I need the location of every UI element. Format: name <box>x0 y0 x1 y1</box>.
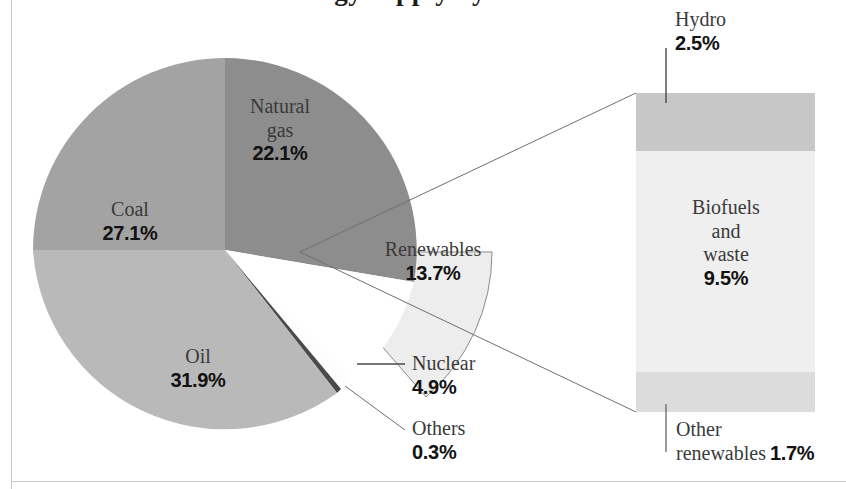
bar-label-biofuels-value: 9.5% <box>655 267 797 291</box>
pie-label-nuclear-value: 4.9% <box>412 376 475 400</box>
pie-label-coal-value: 27.1% <box>65 222 195 246</box>
bar-label-other-renewables: Other renewables 1.7% <box>676 418 814 465</box>
pie-label-renewables-value: 13.7% <box>343 262 523 286</box>
pie-label-nuclear: Nuclear 4.9% <box>412 352 475 399</box>
bar-label-hydro-value: 2.5% <box>675 32 726 56</box>
pie-label-coal-name: Coal <box>65 198 195 222</box>
pie-label-nuclear-name: Nuclear <box>412 352 475 376</box>
bar-label-other-renewables-name2: renewables <box>676 442 766 464</box>
bar-label-other-renewables-name: Other <box>676 418 814 442</box>
pie-label-others-value: 0.3% <box>412 441 465 465</box>
pie-label-natural-gas-name: Natural <box>200 95 360 119</box>
bar-label-biofuels-name: Biofuels <box>655 196 797 220</box>
pie-label-coal: Coal 27.1% <box>65 198 195 245</box>
pie-label-natural-gas-name2: gas <box>200 119 360 143</box>
bar-label-biofuels-and-waste: Biofuels and waste 9.5% <box>655 196 797 290</box>
bar-label-biofuels-name3: waste <box>655 243 797 267</box>
pie-label-others-name: Others <box>412 417 465 441</box>
pie-label-others: Others 0.3% <box>412 417 465 464</box>
bar-label-hydro: Hydro 2.5% <box>675 8 726 55</box>
pie-label-oil: Oil 31.9% <box>133 345 263 392</box>
bar-segment-hydro[interactable] <box>636 93 815 151</box>
bar-segment-other-renewables[interactable] <box>636 372 815 412</box>
bar-label-hydro-name: Hydro <box>675 8 726 32</box>
pie-label-oil-value: 31.9% <box>133 369 263 393</box>
pie-label-renewables: Renewables 13.7% <box>343 238 523 285</box>
pie-label-natural-gas: Natural gas 22.1% <box>200 95 360 166</box>
pie-label-oil-name: Oil <box>133 345 263 369</box>
chart-canvas: Energy supply by source <box>0 0 846 489</box>
pie-label-renewables-name: Renewables <box>343 238 523 262</box>
others-leader-line <box>345 386 405 430</box>
pie-label-natural-gas-value: 22.1% <box>200 142 360 166</box>
bar-label-biofuels-name2: and <box>655 220 797 244</box>
bar-label-other-renewables-value: 1.7% <box>770 442 814 464</box>
